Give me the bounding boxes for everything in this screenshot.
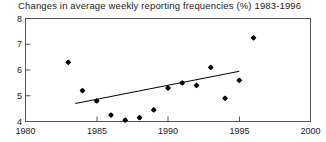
data-point-core bbox=[152, 108, 156, 112]
data-point-group bbox=[65, 35, 256, 123]
data-point-core bbox=[251, 36, 255, 40]
x-tick-label-2000: 2000 bbox=[300, 126, 320, 136]
data-point-core bbox=[237, 78, 241, 82]
x-tick-label-1995: 1995 bbox=[229, 126, 249, 136]
y-tick-label-6: 6 bbox=[17, 65, 22, 75]
data-point-core bbox=[95, 99, 99, 103]
y-axis-ticks: 8 7 6 5 4 bbox=[17, 14, 31, 127]
trend-line bbox=[75, 71, 239, 103]
data-point-core bbox=[80, 89, 84, 93]
data-point-core bbox=[66, 60, 70, 64]
y-tick-label-7: 7 bbox=[17, 39, 22, 49]
data-point-core bbox=[194, 83, 198, 87]
x-tick-label-1980: 1980 bbox=[15, 126, 35, 136]
data-point-core bbox=[180, 81, 184, 85]
y-tick-label-4: 4 bbox=[17, 117, 22, 127]
data-point-core bbox=[223, 96, 227, 100]
plot-axes bbox=[25, 18, 311, 122]
data-point-core bbox=[123, 118, 127, 122]
data-point-core bbox=[137, 116, 141, 120]
data-point-core bbox=[166, 86, 170, 90]
x-axis-ticks: 1980 1985 1990 1995 2000 bbox=[15, 117, 320, 137]
data-point-core bbox=[109, 113, 113, 117]
scatter-plot: 8 7 6 5 4 1980 1985 1990 1995 2000 bbox=[0, 0, 326, 142]
x-tick-label-1985: 1985 bbox=[87, 126, 107, 136]
y-tick-label-5: 5 bbox=[17, 91, 22, 101]
y-tick-label-8: 8 bbox=[17, 14, 22, 24]
chart-figure: Changes in average weekly reporting freq… bbox=[0, 0, 326, 142]
data-point-core bbox=[209, 65, 213, 69]
x-tick-label-1990: 1990 bbox=[158, 126, 178, 136]
